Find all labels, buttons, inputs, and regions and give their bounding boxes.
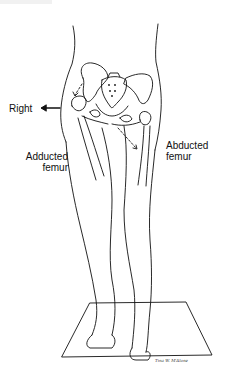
sacral-foramina <box>108 84 116 97</box>
torso-right-outline <box>155 24 161 150</box>
abduction-motion-arrow <box>118 128 136 148</box>
abducted-femur-label: Abducted femur <box>166 140 208 162</box>
right-foot <box>87 335 115 348</box>
left-femoral-head <box>139 111 150 124</box>
left-femur-shaft-a <box>138 126 144 185</box>
left-obturator <box>120 115 132 122</box>
pubic-arch <box>96 104 128 116</box>
right-leg-outer <box>66 142 97 335</box>
abducted-femur-label-line1: Abducted <box>166 140 208 151</box>
anatomy-illustration <box>0 0 226 374</box>
adducted-femur-label: Adducted femur <box>20 151 68 173</box>
abducted-femur-label-line2: femur <box>166 151 208 162</box>
adduction-motion-arrow <box>75 84 82 95</box>
artist-signature: Tina W. M'Alone <box>155 358 188 363</box>
right-obturator <box>90 110 100 117</box>
left-leg-outer <box>146 150 155 352</box>
right-leg-inner <box>102 128 115 335</box>
left-femur-shaft-b <box>146 126 150 186</box>
right-femur-shaft-b <box>84 116 104 176</box>
left-leg-inner <box>124 126 135 348</box>
adducted-femur-label-line1: Adducted <box>20 151 68 162</box>
direction-label: Right <box>9 103 32 114</box>
floor-platform <box>62 302 212 357</box>
torso-left-outline <box>61 26 75 142</box>
left-iliac-wing <box>124 74 153 104</box>
adducted-femur-label-line2: femur <box>20 162 68 173</box>
right-femur-shaft-a <box>78 118 96 180</box>
right-femoral-head <box>71 96 86 111</box>
left-foot <box>130 348 150 360</box>
